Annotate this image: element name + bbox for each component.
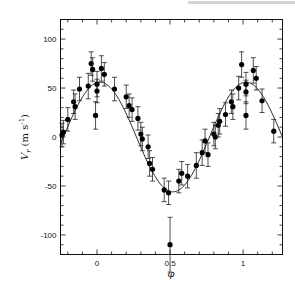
data-point — [166, 181, 171, 205]
y-tick-label: 50 — [48, 84, 57, 93]
y-tick-label: 0 — [52, 133, 57, 142]
plot-frame — [61, 20, 283, 255]
data-point — [243, 102, 248, 129]
data-point — [194, 153, 199, 178]
data-point — [77, 77, 82, 101]
data-point — [65, 108, 70, 132]
x-tick-label: 0 — [95, 259, 100, 268]
x-tick-label: 1 — [241, 259, 246, 268]
data-point — [99, 56, 104, 81]
y-label-units: (m s — [19, 125, 30, 147]
data-point — [236, 76, 241, 100]
y-tick-label: -100 — [40, 231, 57, 240]
y-label-sub: r — [25, 149, 33, 153]
y-tick-label: 100 — [43, 35, 57, 44]
data-point — [162, 178, 167, 202]
radial-velocity-chart: 100500-50-100 00.51 φ Vr(m s-1) — [0, 0, 295, 290]
x-axis-label: φ — [167, 268, 174, 279]
fit-curve — [61, 82, 283, 192]
data-point — [205, 143, 210, 167]
axis-ticks — [61, 20, 283, 255]
y-tick-label: -50 — [45, 182, 57, 191]
y-label-units-close: ) — [19, 114, 30, 118]
data-point — [202, 129, 207, 153]
svg-text:Vr(m s-1): Vr(m s-1) — [18, 114, 33, 160]
data-point — [112, 77, 117, 101]
data-point — [86, 73, 91, 98]
y-label-units-sup: -1 — [18, 118, 26, 125]
y-tick-labels: 100500-50-100 — [40, 35, 57, 240]
data-point — [93, 102, 98, 129]
data-point — [239, 52, 244, 77]
data-point — [135, 107, 140, 130]
data-point — [271, 119, 276, 143]
y-axis-label: Vr(m s-1) — [18, 114, 33, 160]
